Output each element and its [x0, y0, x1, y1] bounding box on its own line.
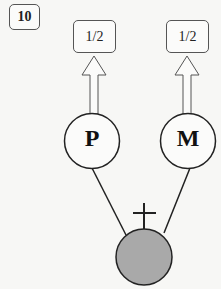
line-m-to-child	[164, 168, 190, 233]
parent-label-p: P	[64, 125, 120, 152]
fraction-box-p: 1/2	[73, 20, 116, 53]
parent-label-m: M	[160, 125, 216, 152]
fraction-box-m: 1/2	[166, 20, 209, 53]
arrow-up-icon-left	[82, 56, 106, 114]
figure-number-box: 10	[9, 4, 40, 30]
fraction-label-p: 1/2	[86, 29, 104, 45]
figure-number: 10	[18, 9, 32, 25]
line-p-to-child	[92, 168, 126, 235]
arrow-up-icon-right	[175, 56, 199, 114]
child-circle	[116, 229, 172, 285]
fraction-label-m: 1/2	[179, 29, 197, 45]
